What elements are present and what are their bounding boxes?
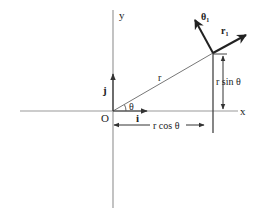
radius-label: r: [158, 72, 162, 83]
r1-label: r1: [221, 25, 228, 37]
origin-label: O: [101, 112, 109, 124]
x-axis-label: x: [240, 105, 246, 117]
y-axis-label: y: [119, 9, 125, 21]
polar-coordinates-diagram: y x O j i θ r r sin θ r cos θ r1 θ1: [0, 0, 259, 220]
angle-arc: [125, 105, 127, 111]
r-sin-theta-label: r sin θ: [216, 76, 241, 87]
theta1-vector: [195, 20, 213, 53]
r-cos-theta-label: r cos θ: [153, 120, 180, 131]
i-label: i: [136, 112, 139, 124]
theta1-label: θ1: [201, 11, 209, 23]
j-label: j: [102, 84, 107, 96]
r1-label-subscript: 1: [225, 31, 228, 37]
angle-label: θ: [129, 101, 134, 112]
radius-line: [113, 53, 213, 111]
theta1-label-subscript: 1: [206, 17, 209, 23]
r1-vector: [213, 35, 246, 53]
